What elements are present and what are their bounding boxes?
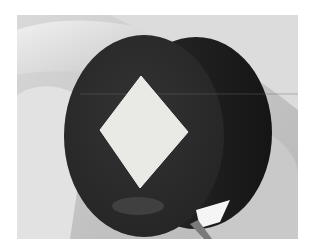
disc-highlight	[112, 197, 164, 215]
photo	[17, 15, 298, 239]
photo-scene	[17, 15, 298, 239]
